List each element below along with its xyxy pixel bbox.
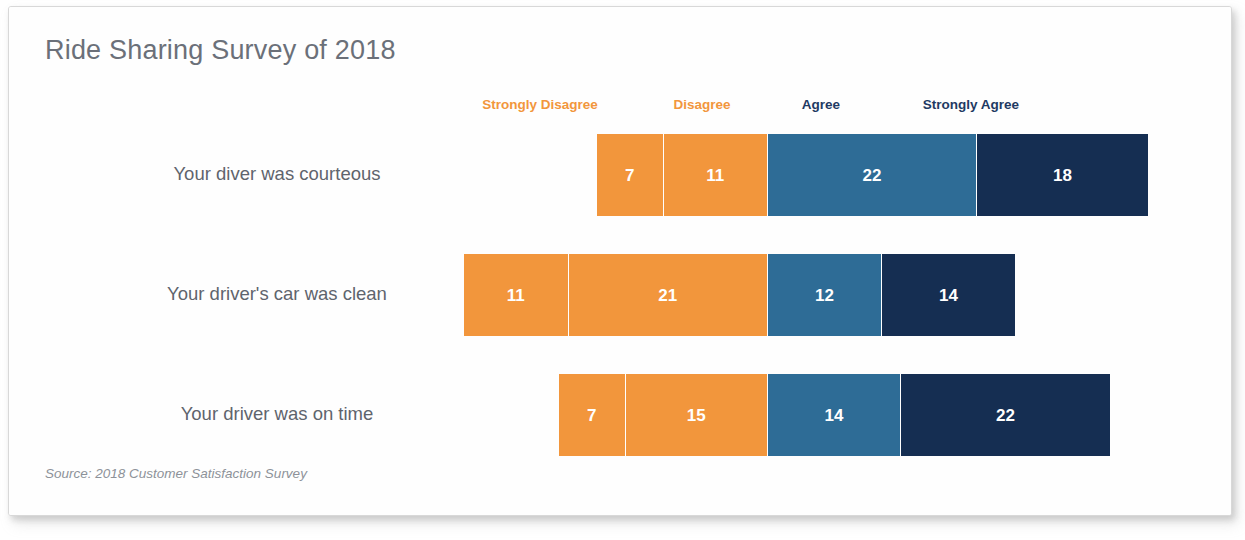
- chart-plot-area: Your diver was courteous7112218Your driv…: [9, 7, 1231, 515]
- bar-segment-value: 14: [825, 407, 844, 424]
- bar-segment-value: 22: [863, 167, 882, 184]
- bar-segment[interactable]: 18: [977, 134, 1148, 216]
- bar-segment-value: 15: [687, 407, 706, 424]
- slide-canvas: Ride Sharing Survey of 2018 Strongly Dis…: [9, 7, 1231, 515]
- bar-category-label: Your driver was on time: [67, 403, 487, 425]
- bar-segment[interactable]: 22: [768, 134, 977, 216]
- bar-segment-value: 18: [1053, 167, 1072, 184]
- chart-bar-row: Your driver's car was clean11211214: [9, 254, 1231, 336]
- bar-segment[interactable]: 11: [664, 134, 769, 216]
- stacked-bar: 7112218: [597, 134, 1148, 216]
- bar-category-label: Your driver's car was clean: [67, 283, 487, 305]
- bar-segment-value: 7: [625, 167, 634, 184]
- stacked-bar: 11211214: [464, 254, 1015, 336]
- bar-segment[interactable]: 15: [626, 374, 769, 456]
- bar-segment[interactable]: 7: [597, 134, 664, 216]
- bar-segment-value: 22: [996, 407, 1015, 424]
- bar-segment[interactable]: 22: [901, 374, 1110, 456]
- bar-segment-value: 21: [658, 287, 677, 304]
- chart-bar-row: Your diver was courteous7112218: [9, 134, 1231, 216]
- bar-category-label: Your diver was courteous: [67, 163, 487, 185]
- source-note: Source: 2018 Customer Satisfaction Surve…: [45, 466, 307, 481]
- bar-segment-value: 11: [507, 287, 525, 304]
- bar-segment-value: 12: [815, 287, 834, 304]
- bar-segment[interactable]: 14: [882, 254, 1015, 336]
- bar-segment[interactable]: 21: [569, 254, 769, 336]
- chart-bar-row: Your driver was on time7151422: [9, 374, 1231, 456]
- bar-segment[interactable]: 7: [559, 374, 626, 456]
- bar-segment-value: 14: [939, 287, 958, 304]
- bar-segment[interactable]: 11: [464, 254, 569, 336]
- stacked-bar: 7151422: [559, 374, 1110, 456]
- bar-segment-value: 7: [587, 407, 596, 424]
- bar-segment[interactable]: 12: [768, 254, 882, 336]
- bar-segment-value: 11: [706, 167, 724, 184]
- slide-frame: Ride Sharing Survey of 2018 Strongly Dis…: [8, 6, 1232, 516]
- bar-segment[interactable]: 14: [768, 374, 901, 456]
